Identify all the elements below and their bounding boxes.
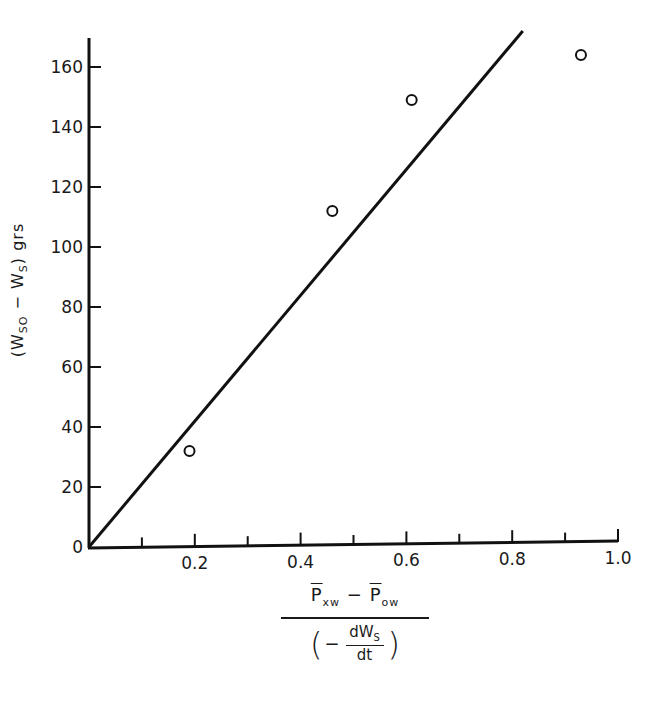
derivative-top-sub: S [374,632,380,643]
y-tick-label: 60 [61,357,83,377]
y-tick-label: 160 [51,57,83,77]
ticks: 0204060801001201401600.20.40.60.81.0 [51,57,632,573]
x-label-sub: xw [323,596,341,609]
x-tick-label: 0.2 [181,553,208,573]
data-point-marker [407,95,417,105]
y-tick-label: 20 [61,477,83,497]
x-tick-label: 1.0 [604,548,631,568]
x-label-part: P [311,584,323,605]
derivative-fraction: dWS dt [346,625,384,664]
y-label-part: (W [8,333,27,357]
y-tick-label: 40 [61,417,83,437]
x-label-denominator: ( − dWS dt ) [275,625,435,664]
derivative-top: dW [349,623,373,641]
x-label-numerator: Pxw − Pow [275,584,435,613]
y-tick-label: 140 [51,117,83,137]
x-tick-label: 0.4 [287,552,314,572]
x-label-part: P [370,584,382,605]
data-series [89,31,586,547]
paren-open: ( [310,628,322,660]
y-tick-label: 100 [51,237,83,257]
y-label-sub: SO [17,316,30,334]
x-tick-label: 0.6 [393,550,420,570]
x-label-part: − [340,584,370,605]
data-point-marker [185,446,195,456]
minus-sign: − [324,635,339,653]
x-label-sub: ow [382,596,400,609]
axes [88,38,618,548]
fit-line [89,31,523,547]
x-tick-label: 0.8 [499,549,526,569]
y-tick-label: 0 [72,537,83,557]
derivative-bottom: dt [357,648,372,663]
y-axis-label: (WSO − WS) grs [4,160,34,420]
y-label-sub: S [17,264,30,272]
data-point-marker [327,206,337,216]
paren-close: ) [388,628,400,660]
x-axis-label: Pxw − Pow ( − dWS dt ) [275,584,435,663]
y-tick-label: 120 [51,177,83,197]
data-point-marker [576,50,586,60]
y-label-part: − W [8,272,27,315]
y-tick-label: 80 [61,297,83,317]
fraction-bar [281,617,429,619]
y-label-part: ) grs [8,223,27,264]
